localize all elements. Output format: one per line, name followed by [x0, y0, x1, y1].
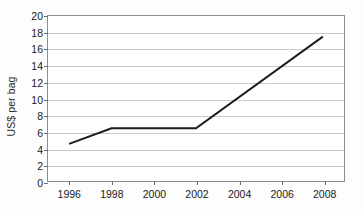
y-tick-label: 14 [31, 60, 43, 72]
x-tick-mark [325, 181, 326, 185]
x-tick-label: 2000 [143, 188, 166, 200]
y-tick-label: 16 [31, 43, 43, 55]
y-tick-label: 20 [31, 10, 43, 22]
y-tick-label: 2 [37, 160, 43, 172]
y-tick-label: 8 [37, 110, 43, 122]
x-tick-label: 2006 [270, 188, 293, 200]
x-tick-mark [240, 181, 241, 185]
x-tick-mark [282, 181, 283, 185]
y-tick-label: 6 [37, 127, 43, 139]
x-tick-mark [69, 181, 70, 185]
plot-area: 02468101214161820 1996199820002002200420… [47, 15, 345, 182]
data-series-layer [48, 16, 344, 181]
x-tick-label: 2004 [228, 188, 251, 200]
y-tick-label: 12 [31, 77, 43, 89]
x-tick-mark [154, 181, 155, 185]
y-axis-title: US$ per bag [0, 0, 22, 213]
line-chart: US$ per bag 02468101214161820 1996199820… [0, 0, 363, 213]
x-tick-mark [112, 181, 113, 185]
x-tick-label: 2008 [313, 188, 336, 200]
y-tick-label: 10 [31, 94, 43, 106]
y-tick-label: 0 [37, 177, 43, 189]
y-tick-label: 18 [31, 27, 43, 39]
y-tick-label: 4 [37, 144, 43, 156]
y-tick-mark [44, 183, 48, 184]
x-tick-label: 1996 [58, 188, 81, 200]
x-tick-label: 2002 [185, 188, 208, 200]
x-tick-label: 1998 [100, 188, 123, 200]
series-line-us-dollars-per-bag [69, 37, 323, 144]
x-tick-mark [197, 181, 198, 185]
